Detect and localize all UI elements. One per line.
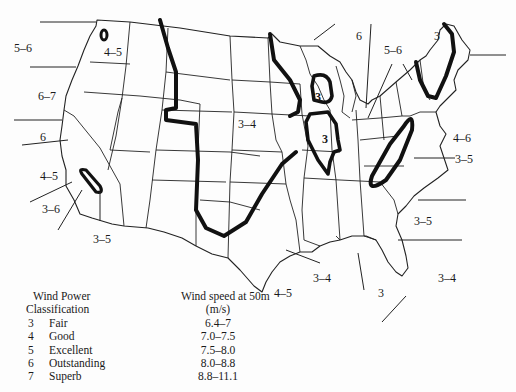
legend-class-name: Superb bbox=[49, 370, 82, 382]
label-great-plains: 3–4 bbox=[238, 118, 256, 130]
legend-class-number: 7 bbox=[26, 370, 49, 383]
legend-class-number: 5 bbox=[26, 344, 49, 357]
legend-header: Wind Power Wind speed at 50m bbox=[26, 290, 270, 303]
label-gulf-louisiana: 3–4 bbox=[313, 272, 331, 284]
label-carolinas-offshore: 3–5 bbox=[414, 215, 432, 227]
zone-plains-west bbox=[160, 20, 296, 236]
label-s-california-inland: 3–5 bbox=[93, 233, 111, 245]
label-n-california-offshore: 6 bbox=[40, 131, 46, 143]
us-outline bbox=[60, 20, 470, 292]
legend-table: Wind Power Wind speed at 50m Classificat… bbox=[26, 290, 270, 384]
legend-row: 6Outstanding 8.0–8.8 bbox=[26, 357, 270, 370]
legend-class-name: Outstanding bbox=[49, 357, 105, 369]
label-mid-atlantic-offshore: 4–6 bbox=[453, 132, 471, 144]
legend-speed-range: 7.0–7.5 bbox=[181, 330, 255, 343]
legend-class-name: Good bbox=[49, 330, 75, 342]
legend-row: 4Good 7.0–7.5 bbox=[26, 330, 270, 343]
legend-class-number: 4 bbox=[26, 330, 49, 343]
legend-row: 7Superb 8.8–11.1 bbox=[26, 370, 270, 383]
legend-row: 5Excellent 7.5–8.0 bbox=[26, 344, 270, 357]
zone-central-california bbox=[81, 170, 102, 193]
wind-class-legend: Wind Power Wind speed at 50m Classificat… bbox=[26, 290, 270, 384]
legend-class-name: Excellent bbox=[49, 344, 92, 356]
legend-class-header-1: Wind Power bbox=[26, 290, 181, 303]
legend-speed-header-2: (m/s) bbox=[181, 303, 255, 316]
legend-row: 3Fair 6.4–7 bbox=[26, 317, 270, 330]
legend-class-number: 6 bbox=[26, 357, 49, 370]
label-puget-sound: 4–5 bbox=[104, 46, 122, 58]
legend-speed-range: 6.4–7 bbox=[181, 317, 255, 330]
legend-speed-range: 8.8–11.1 bbox=[181, 370, 255, 383]
legend-header-2: Classification (m/s) bbox=[26, 303, 270, 316]
label-atlantic-florida: 3–4 bbox=[438, 272, 456, 284]
zone-puget-sound bbox=[101, 30, 107, 40]
label-central-california-offshore: 4–5 bbox=[40, 170, 58, 182]
label-gulf-texas: 4–5 bbox=[274, 287, 292, 299]
zone-plains-east bbox=[270, 34, 300, 116]
legend-speed-header-1: Wind speed at 50m bbox=[181, 290, 270, 303]
legend-class-header-2: Classification bbox=[26, 303, 181, 316]
legend-class-name: Fair bbox=[49, 317, 68, 329]
label-pacific-nw-offshore: 5–6 bbox=[14, 42, 32, 54]
lake-michigan-shore bbox=[300, 46, 356, 118]
label-lake-superior: 6 bbox=[356, 30, 362, 42]
legend-speed-range: 8.0–8.8 bbox=[181, 357, 255, 370]
label-illinois: 3 bbox=[322, 133, 328, 145]
label-new-england: 3 bbox=[434, 30, 440, 42]
label-oregon-offshore: 6–7 bbox=[38, 90, 56, 102]
label-great-lakes-east: 5–6 bbox=[384, 44, 402, 56]
zone-appalachian bbox=[371, 119, 413, 186]
label-wisconsin-michigan: 3 bbox=[315, 91, 321, 103]
label-gulf-florida: 3 bbox=[378, 287, 384, 299]
label-appalachian: 3–5 bbox=[455, 153, 473, 165]
legend-class-number: 3 bbox=[26, 317, 49, 330]
legend-speed-range: 7.5–8.0 bbox=[181, 344, 255, 357]
label-s-california-offshore: 3–6 bbox=[42, 203, 60, 215]
